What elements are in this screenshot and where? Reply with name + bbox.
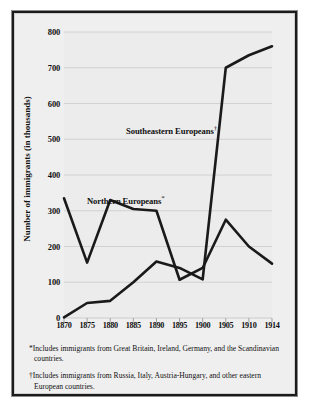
y-axis-tick-label: 600 bbox=[48, 99, 60, 109]
y-axis-tick-labels: 0100200300400500600700800 bbox=[29, 32, 60, 318]
line-northern-europeans bbox=[64, 198, 272, 280]
x-axis-tick-label: 1905 bbox=[218, 321, 233, 330]
x-axis-tick-label: 1900 bbox=[195, 321, 210, 330]
series-label-northern-text: Northern Europeans bbox=[87, 196, 161, 206]
plot-area bbox=[64, 32, 272, 318]
immigration-line-chart-figure: Number of immigrants (in thousands) 0100… bbox=[0, 0, 309, 408]
data-series-lines bbox=[64, 32, 272, 318]
x-axis-tick-label: 1890 bbox=[149, 321, 164, 330]
series-label-southeastern-mark: † bbox=[214, 124, 217, 132]
chart-panel: Number of immigrants (in thousands) 0100… bbox=[14, 13, 295, 394]
footnotes-block: *Includes immigrants from Great Britain,… bbox=[29, 344, 283, 399]
series-label-southeastern-europeans: Southeastern Europeans† bbox=[126, 124, 217, 136]
series-label-northern-mark: * bbox=[161, 194, 164, 202]
y-axis-tick-label: 500 bbox=[48, 134, 60, 144]
x-axis-tick-label: 1914 bbox=[264, 321, 279, 330]
footnote-dagger: †Includes immigrants from Russia, Italy,… bbox=[29, 371, 283, 391]
line-southeastern-europeans bbox=[64, 46, 272, 317]
chart-frame-border: Number of immigrants (in thousands) 0100… bbox=[12, 11, 297, 396]
x-axis-tick-labels: 1870187518801885189018951900190519101914 bbox=[64, 321, 272, 335]
footnote-asterisk-text: Includes immigrants from Great Britain, … bbox=[33, 344, 279, 363]
plot-wrapper: Number of immigrants (in thousands) 0100… bbox=[15, 14, 296, 319]
y-axis-tick-label: 400 bbox=[48, 170, 60, 180]
y-axis-tick-label: 100 bbox=[48, 277, 60, 287]
x-axis-tick-label: 1885 bbox=[126, 321, 141, 330]
x-axis-tick-label: 1895 bbox=[172, 321, 187, 330]
footnote-asterisk: *Includes immigrants from Great Britain,… bbox=[29, 344, 283, 364]
x-axis-tick-label: 1880 bbox=[103, 321, 118, 330]
series-label-southeastern-text: Southeastern Europeans bbox=[126, 126, 214, 136]
x-axis-tick-label: 1875 bbox=[80, 321, 95, 330]
footnote-dagger-text: Includes immigrants from Russia, Italy, … bbox=[33, 371, 261, 390]
y-axis-tick-label: 200 bbox=[48, 242, 60, 252]
y-axis-tick-label: 700 bbox=[48, 63, 60, 73]
x-axis-tick-label: 1910 bbox=[241, 321, 256, 330]
series-label-northern-europeans: Northern Europeans* bbox=[87, 194, 165, 206]
y-axis-tick-label: 300 bbox=[48, 206, 60, 216]
x-axis-tick-label: 1870 bbox=[56, 321, 71, 330]
y-axis-tick-label: 800 bbox=[48, 27, 60, 37]
